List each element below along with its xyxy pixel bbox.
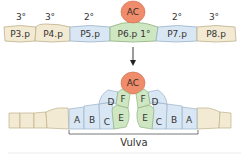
vulva-bracket — [69, 130, 198, 134]
cell-label-p5p: P5.p — [80, 29, 100, 39]
arrow-down-icon — [130, 60, 136, 66]
fate-label-p8: 3° — [209, 12, 219, 22]
fate-label-p3: 3° — [16, 12, 26, 22]
cell-label-p6p: P6.p 1° — [118, 29, 151, 39]
cell-letter-right-f: F — [140, 94, 145, 104]
fate-label-p7: 2° — [172, 12, 182, 22]
cell-letter-left-b: B — [89, 115, 95, 125]
cell-label-p3p: P3.p — [10, 29, 30, 39]
tertiary-cells-left — [9, 108, 69, 129]
fate-label-p5: 2° — [84, 12, 94, 22]
tertiary-cells-right — [197, 108, 231, 129]
cell-letter-right-b: B — [171, 115, 177, 125]
vulval-development-diagram: 3° 3° 2° 2° 3° P3.p P4.p P5.p P6.p 1° P7… — [0, 0, 241, 158]
cell-letter-left-a: A — [74, 115, 81, 125]
anchor-cell-bottom-label: AC — [127, 78, 139, 88]
cell-label-p8p: P8.p — [206, 29, 226, 39]
cell-letter-left-d: D — [108, 97, 115, 107]
cell-label-p4p: P4.p — [43, 29, 63, 39]
cell-letter-left-e: E — [118, 113, 124, 123]
fate-label-p4: 3° — [45, 12, 55, 22]
cell-letter-left-f: F — [120, 94, 125, 104]
cell-letter-right-e: E — [142, 113, 148, 123]
cell-label-p7p: P7.p — [167, 29, 187, 39]
cell-letter-left-c: C — [104, 117, 110, 127]
anchor-cell-top-label: AC — [127, 7, 139, 17]
cell-letter-right-a: A — [186, 115, 193, 125]
vulva-label: Vulva — [120, 137, 147, 148]
cell-letter-right-d: D — [152, 97, 159, 107]
cell-letter-right-c: C — [156, 117, 162, 127]
